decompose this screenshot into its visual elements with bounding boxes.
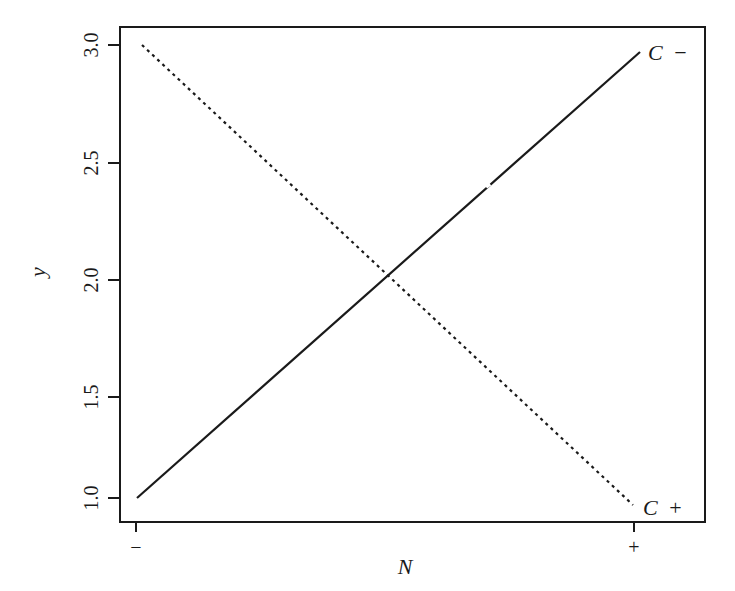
interaction-plot: 3.0 2.5 2.0 1.5 1.0 y − + N C − C +: [0, 0, 735, 591]
y-tick-label-2.0: 2.0: [80, 268, 102, 293]
series-label-c-plus-sign: +: [669, 495, 681, 520]
y-axis-label: y: [25, 267, 50, 279]
x-axis-label: N: [397, 554, 414, 579]
x-tick-label-minus: −: [130, 536, 141, 558]
series-label-c-plus: C +: [643, 495, 682, 520]
series-line-c-plus: [142, 45, 633, 505]
y-tick-label-1.0: 1.0: [80, 486, 102, 511]
x-tick-label-plus: +: [628, 536, 639, 558]
series-label-c-minus-var: C: [648, 40, 663, 65]
x-axis: [136, 522, 634, 532]
y-axis: [108, 45, 120, 498]
line-print-gap: [486, 184, 490, 187]
series-label-c-minus: C −: [648, 40, 687, 65]
series-label-c-minus-sign: −: [674, 40, 686, 65]
y-tick-label-3.0: 3.0: [80, 33, 102, 58]
y-tick-label-2.5: 2.5: [80, 151, 102, 176]
plot-frame: [120, 27, 705, 522]
y-tick-label-1.5: 1.5: [80, 385, 102, 410]
series-label-c-plus-var: C: [643, 495, 658, 520]
